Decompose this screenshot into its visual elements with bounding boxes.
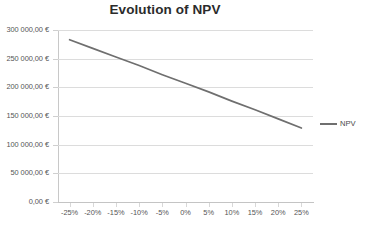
y-axis-label: 200 000,00 € <box>0 82 49 91</box>
npv-line-chart: Evolution of NPV NPV 0,00 €50 000,00 €10… <box>0 0 365 229</box>
y-axis-label: 0,00 € <box>0 197 49 206</box>
series-layer <box>0 0 365 229</box>
x-axis-tick <box>232 203 233 207</box>
x-axis-tick <box>278 203 279 207</box>
x-axis-tick <box>301 203 302 207</box>
legend-label-npv: NPV <box>340 119 356 128</box>
x-axis-tick <box>186 203 187 207</box>
y-axis-label: 300 000,00 € <box>0 25 49 34</box>
y-axis-tick <box>53 116 58 117</box>
y-axis-tick <box>53 145 58 146</box>
y-axis-tick <box>53 173 58 174</box>
x-axis-tick <box>209 203 210 207</box>
x-axis-tick <box>139 203 140 207</box>
y-axis-label: 250 000,00 € <box>0 54 49 63</box>
x-axis-tick <box>255 203 256 207</box>
y-axis-tick <box>53 59 58 60</box>
x-axis-tick <box>162 203 163 207</box>
y-axis-tick <box>53 202 58 203</box>
legend-swatch-npv <box>320 123 337 125</box>
x-axis-tick <box>70 203 71 207</box>
y-axis-tick <box>53 87 58 88</box>
legend: NPV <box>320 119 356 128</box>
x-axis-tick <box>116 203 117 207</box>
y-axis-label: 100 000,00 € <box>0 140 49 149</box>
series-line-npv <box>70 40 302 128</box>
y-axis-label: 50 000,00 € <box>0 168 49 177</box>
x-axis-tick <box>93 203 94 207</box>
y-axis-tick <box>53 30 58 31</box>
y-axis-label: 150 000,00 € <box>0 111 49 120</box>
x-axis-label: 25% <box>281 208 321 217</box>
